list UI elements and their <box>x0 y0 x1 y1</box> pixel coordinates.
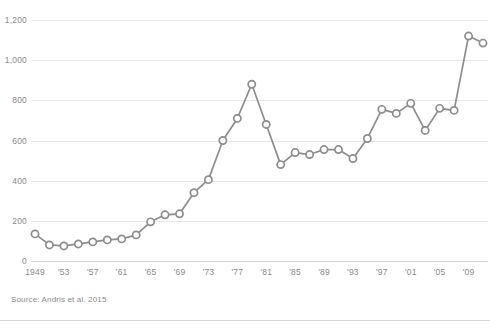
data-point-marker <box>205 176 212 183</box>
data-point-marker <box>219 137 226 144</box>
gridlines-group <box>31 21 488 262</box>
data-point-marker <box>306 151 313 158</box>
x-axis-tick-label: '53 <box>58 267 70 277</box>
x-axis-tick-label: '97 <box>376 267 388 277</box>
x-axis-tick-label: '93 <box>347 267 359 277</box>
x-axis-tick-labels: 1949'53'57'61'65'69'73'77'81'85'89'93'97… <box>25 267 474 277</box>
data-point-marker <box>422 127 429 134</box>
data-point-marker <box>161 211 168 218</box>
data-point-marker <box>277 161 284 168</box>
data-point-marker <box>407 100 414 107</box>
x-axis-tick-label: '61 <box>116 267 128 277</box>
y-axis-tick-label: 1,200 <box>5 15 27 25</box>
bottom-divider <box>0 320 490 321</box>
data-point-marker <box>436 105 443 112</box>
y-axis-tick-label: 0 <box>22 256 27 266</box>
data-point-marker <box>263 121 270 128</box>
y-axis-tick-label: 1,000 <box>5 55 27 65</box>
y-axis-tick-labels: 02004006008001,0001,200 <box>5 15 27 266</box>
x-axis-tick-label: '01 <box>405 267 417 277</box>
chart-plot-area: 02004006008001,0001,200 1949'53'57'61'65… <box>0 0 490 285</box>
x-axis-tick-label: 1949 <box>25 267 45 277</box>
data-point-marker <box>75 240 82 247</box>
chart-page: 02004006008001,0001,200 1949'53'57'61'65… <box>0 0 490 329</box>
data-point-marker <box>31 230 38 237</box>
x-axis-tick-label: '81 <box>260 267 272 277</box>
data-point-marker <box>349 155 356 162</box>
data-point-marker <box>479 40 486 47</box>
x-axis-tick-label: '77 <box>231 267 243 277</box>
data-point-marker <box>248 81 255 88</box>
y-axis-tick-label: 600 <box>12 136 27 146</box>
data-point-marker <box>133 231 140 238</box>
y-axis-tick-label: 800 <box>12 95 27 105</box>
data-point-marker <box>176 210 183 217</box>
data-point-marker <box>378 106 385 113</box>
data-point-marker <box>234 115 241 122</box>
x-axis-tick-label: '69 <box>174 267 186 277</box>
data-point-marker <box>118 235 125 242</box>
data-point-marker <box>393 110 400 117</box>
source-note: Source: Andris et al. 2015 <box>11 295 107 304</box>
data-point-marker <box>89 238 96 245</box>
data-point-marker <box>335 146 342 153</box>
data-point-marker <box>292 149 299 156</box>
data-point-marker <box>190 189 197 196</box>
data-point-marker <box>451 107 458 114</box>
x-axis-tick-label: '85 <box>289 267 301 277</box>
data-point-marker <box>104 236 111 243</box>
data-point-marker <box>60 242 67 249</box>
top-clip-band <box>0 0 490 6</box>
x-axis-tick-label: '57 <box>87 267 99 277</box>
data-point-marker <box>364 135 371 142</box>
x-axis-tick-label: '89 <box>318 267 330 277</box>
data-point-marker <box>465 32 472 39</box>
line-chart-svg: 02004006008001,0001,200 1949'53'57'61'65… <box>0 0 490 285</box>
data-point-marker <box>46 241 53 248</box>
y-axis-tick-label: 400 <box>12 176 27 186</box>
x-axis-tick-label: '73 <box>203 267 215 277</box>
data-point-marker <box>147 218 154 225</box>
x-axis-tick-label: '09 <box>463 267 475 277</box>
x-axis-tick-label: '65 <box>145 267 157 277</box>
data-point-marker <box>320 146 327 153</box>
x-axis-tick-label: '05 <box>434 267 446 277</box>
y-axis-tick-label: 200 <box>12 216 27 226</box>
